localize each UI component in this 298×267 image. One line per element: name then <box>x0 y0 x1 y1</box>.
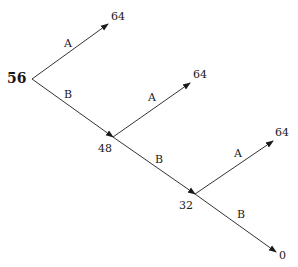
edge-root-n1 <box>32 24 108 79</box>
tree-edges <box>0 0 298 267</box>
node-n4-label: 32 <box>179 200 193 211</box>
edge-label-n4-n6: B <box>237 209 245 220</box>
edge-label-n2-n4: B <box>155 154 163 165</box>
edge-label-root-n2: B <box>64 89 72 100</box>
edge-label-root-n1: A <box>64 38 72 49</box>
node-n6-label: 0 <box>279 250 286 261</box>
node-n3-label: 64 <box>193 69 207 80</box>
root-node-label: 56 <box>7 71 26 85</box>
node-n2-label: 48 <box>98 143 112 154</box>
node-n1-label: 64 <box>111 11 125 22</box>
edge-root-n2 <box>32 79 113 137</box>
edge-n4-n6 <box>195 194 276 252</box>
node-n5-label: 64 <box>275 127 289 138</box>
edge-label-n2-n3: A <box>148 92 156 103</box>
edge-label-n4-n5: A <box>234 148 242 159</box>
edge-n2-n4 <box>113 137 195 194</box>
